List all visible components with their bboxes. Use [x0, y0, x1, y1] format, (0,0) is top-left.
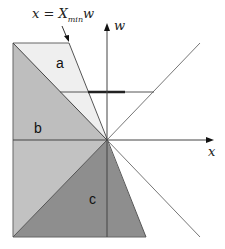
formula-var: X [59, 6, 68, 21]
formula-suffix: w [83, 6, 94, 21]
x-axis-label: x [208, 144, 215, 159]
formula-equals: = [39, 6, 58, 21]
x-axis-arrowhead [206, 137, 214, 143]
region-a-label: a [56, 55, 64, 71]
region-b-label: b [34, 120, 42, 136]
region-c-label: c [89, 191, 96, 207]
formula-label: x = Xminw [32, 6, 94, 24]
w-axis-label: w [114, 18, 125, 33]
formula-subscript: min [68, 15, 83, 24]
w-axis-arrowhead [104, 23, 110, 31]
formula-pointer-arrowhead [64, 35, 69, 42]
diagram: x = Xminw w x a b c [0, 0, 225, 249]
